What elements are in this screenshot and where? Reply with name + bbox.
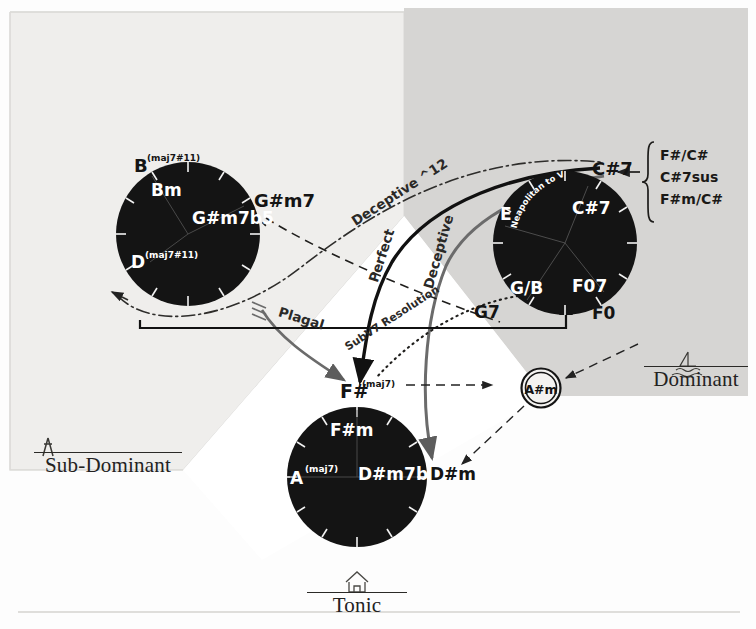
chord-label: D#m7b5	[358, 464, 440, 484]
sub-dominant-circle[interactable]	[116, 162, 260, 306]
diagram-canvas: B (maj7#11) Bm G#m7b5 D (maj7#11) G#m7 E…	[0, 0, 756, 629]
chord-sup: (maj7#11)	[147, 153, 200, 163]
chord-label: D#m	[430, 464, 476, 484]
chord-label: Bm	[151, 180, 182, 200]
chord-label: E	[500, 204, 512, 224]
chord-label: G7	[474, 302, 500, 322]
chord-label: F07	[572, 276, 607, 296]
chord-label: F0	[592, 303, 616, 323]
region-label-sub-dominant: Sub-Dominant	[34, 452, 182, 476]
chord-label: G/B	[510, 278, 543, 298]
substitution-item: F#/C#	[660, 147, 708, 163]
chord-label: G#m7	[254, 190, 315, 211]
chord-sup: (maj7)	[362, 379, 395, 389]
region-label-dominant: Dominant	[644, 366, 748, 390]
chord-label: A	[290, 468, 304, 488]
chord-label: G#m7b5	[192, 208, 274, 228]
substitution-item: F#m/C#	[660, 191, 723, 207]
sub-dominant-label: Sub-Dominant	[34, 452, 182, 476]
chord-label: D	[131, 252, 145, 272]
chord-sup: (maj7#11)	[145, 250, 198, 260]
dominant-label: Dominant	[644, 366, 748, 390]
diagram-svg: B (maj7#11) Bm G#m7b5 D (maj7#11) G#m7 E…	[0, 0, 756, 629]
chord-sup: (maj7)	[305, 464, 338, 474]
chord-label: C#7	[572, 198, 611, 218]
chord-label: B	[134, 155, 148, 176]
chord-label: F#m	[330, 420, 374, 440]
substitution-item: C#7sus	[660, 169, 718, 185]
chord-label: C#7	[592, 158, 633, 179]
tonic-label: Tonic	[307, 592, 407, 616]
region-label-tonic: Tonic	[307, 592, 407, 616]
pivot-chord-label: A#m	[524, 382, 557, 397]
